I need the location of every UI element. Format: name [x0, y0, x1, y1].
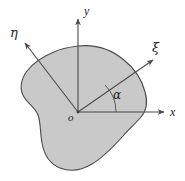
- y-axis-label: y: [84, 5, 89, 17]
- origin-point: [77, 111, 80, 114]
- x-axis-label: x: [170, 106, 175, 118]
- figure-drawing: [0, 0, 185, 181]
- xi-axis-label: ξ: [152, 41, 159, 54]
- origin-label: o: [68, 112, 74, 123]
- eta-axis-label: η: [10, 26, 18, 39]
- alpha-angle-label: α: [113, 89, 121, 101]
- figure-container: y x ξ η α o: [0, 0, 185, 181]
